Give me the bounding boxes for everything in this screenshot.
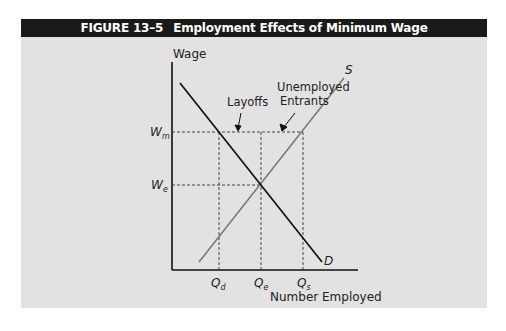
supply-label: S xyxy=(345,63,353,77)
x-axis-label: Number Employed xyxy=(270,290,382,304)
entrants-arrow xyxy=(284,113,295,127)
unemployed-label-line1: Unemployed xyxy=(277,80,350,94)
unemployed-label-line2: Entrants xyxy=(280,94,329,108)
demand-curve xyxy=(180,83,322,262)
layoffs-label: Layoffs xyxy=(227,95,268,109)
layoffs-arrowhead-icon xyxy=(235,125,241,131)
dashed-guides xyxy=(172,132,303,270)
wm-label: Wm xyxy=(150,125,170,141)
we-label: We xyxy=(151,178,168,194)
demand-label: D xyxy=(324,254,333,268)
chart-svg: Wage Number Employed S D Layoffs Unemplo… xyxy=(0,0,506,331)
qe-label: Qe xyxy=(254,276,268,292)
qd-label: Qd xyxy=(211,276,226,292)
qs-label: Qs xyxy=(297,276,311,292)
y-axis-label: Wage xyxy=(173,47,206,61)
annotation-arrows xyxy=(235,113,295,131)
